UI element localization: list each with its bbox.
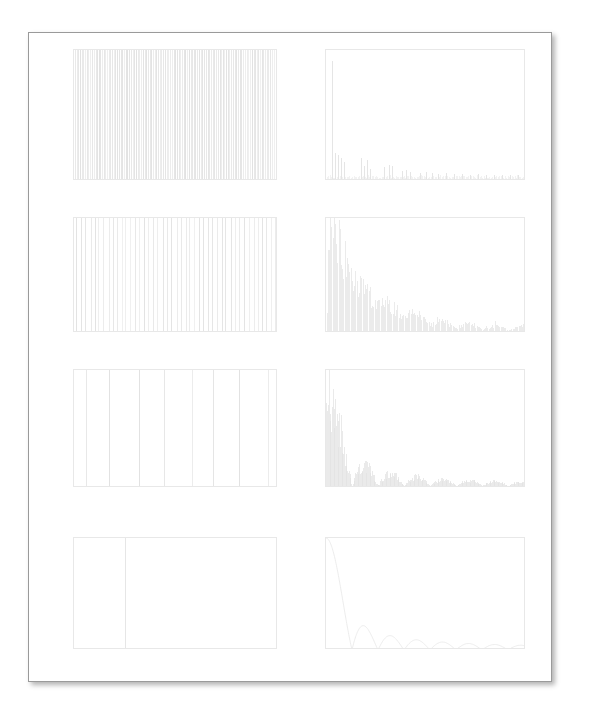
y-tick-mark bbox=[73, 381, 74, 382]
y-tick-mark bbox=[73, 560, 74, 561]
impulse-line bbox=[249, 217, 250, 331]
impulse-line bbox=[332, 61, 333, 179]
y-tick-mark bbox=[73, 549, 74, 550]
x-tick-mark bbox=[145, 331, 146, 332]
x-tick-mark bbox=[207, 648, 208, 649]
impulse-line bbox=[85, 217, 86, 331]
x-tick-mark bbox=[125, 648, 126, 649]
impulse-line bbox=[218, 49, 219, 179]
x-tick-mark bbox=[74, 179, 75, 180]
x-tick-mark bbox=[426, 648, 427, 649]
impulse-line bbox=[143, 49, 144, 179]
impulse-line bbox=[194, 49, 195, 179]
plot-grid: 0.00.51.01.52.02.53.03.54.04.55.00.0000.… bbox=[29, 33, 551, 681]
y-tick-mark bbox=[325, 167, 326, 168]
impulse-line bbox=[163, 217, 164, 331]
y-tick-mark bbox=[73, 264, 74, 265]
plot-spec-3: 0.00.10.20.30.40.50.60.702505007501000Hz bbox=[325, 369, 525, 487]
axes-area-spec-4: 0.000.010.020.030.040.050.060.070.080250… bbox=[325, 537, 525, 649]
plot-time-1: 0.00.51.01.52.02.53.03.54.04.55.00.0000.… bbox=[73, 49, 277, 180]
impulse-line bbox=[254, 217, 255, 331]
impulse-line bbox=[103, 217, 104, 331]
x-tick-mark bbox=[326, 179, 327, 180]
y-tick-mark bbox=[73, 298, 74, 299]
y-tick-mark bbox=[325, 386, 326, 387]
impulse-line bbox=[275, 217, 276, 331]
axes-area-spec-3: 0.00.10.20.30.40.50.60.702505007501000Hz bbox=[325, 369, 525, 487]
impulse-line bbox=[124, 49, 125, 179]
y-tick-mark bbox=[325, 102, 326, 103]
plot-time-3: 0.00.51.01.52.02.53.03.54.04.55.00.0000.… bbox=[73, 369, 277, 487]
impulse-line bbox=[236, 49, 237, 179]
x-tick-mark bbox=[268, 648, 269, 649]
impulse-line bbox=[130, 217, 131, 331]
x-tick-mark bbox=[227, 331, 228, 332]
x-tick-mark bbox=[247, 648, 248, 649]
impulse-line bbox=[222, 217, 223, 331]
y-tick-mark bbox=[73, 128, 74, 129]
impulse-line bbox=[189, 49, 190, 179]
impulse-line bbox=[144, 217, 145, 331]
x-tick-mark bbox=[74, 486, 75, 487]
impulse-line bbox=[204, 49, 205, 179]
impulse-line bbox=[100, 49, 101, 179]
x-tick-mark bbox=[166, 331, 167, 332]
impulse-line bbox=[109, 369, 110, 486]
y-tick-mark bbox=[325, 154, 326, 155]
impulse-line bbox=[258, 217, 259, 331]
impulse-line bbox=[91, 217, 92, 331]
x-tick-mark bbox=[376, 179, 377, 180]
y-tick-mark bbox=[325, 76, 326, 77]
axes-area-spec-1: 0.000.250.500.751.001.251.501.752.002.25… bbox=[325, 49, 525, 180]
impulse-line bbox=[265, 49, 266, 179]
x-tick-mark bbox=[326, 331, 327, 332]
axes-area-time-4: 0.00.51.01.52.02.53.03.54.04.55.00501502… bbox=[73, 537, 277, 649]
y-tick-mark bbox=[73, 275, 74, 276]
y-tick-mark bbox=[73, 310, 74, 311]
impulse-line bbox=[271, 217, 272, 331]
plot-spec-1: 0.000.250.500.751.001.251.501.752.002.25… bbox=[325, 49, 525, 180]
y-tick-mark bbox=[325, 141, 326, 142]
axes-area-time-2: 0.00.51.01.52.02.53.03.54.04.55.00501502… bbox=[73, 217, 277, 332]
y-tick-mark bbox=[325, 241, 326, 242]
impulse-line bbox=[164, 369, 165, 486]
impulse-line bbox=[81, 217, 82, 331]
impulse-line bbox=[250, 49, 251, 179]
y-tick-mark bbox=[73, 627, 74, 628]
impulse-line bbox=[117, 217, 118, 331]
x-tick-mark bbox=[376, 331, 377, 332]
y-tick-mark bbox=[325, 50, 326, 51]
plot-time-4: 0.00.51.01.52.02.53.03.54.04.55.00501502… bbox=[73, 537, 277, 649]
impulse-line bbox=[217, 217, 218, 331]
y-tick-mark bbox=[325, 63, 326, 64]
y-tick-mark bbox=[73, 538, 74, 539]
x-tick-mark bbox=[207, 331, 208, 332]
impulse-line bbox=[231, 49, 232, 179]
axes-area-spec-2: 0.000.250.500.751.001.2502505007501000Hz bbox=[325, 217, 525, 332]
y-tick-mark bbox=[325, 264, 326, 265]
x-tick-mark bbox=[176, 179, 177, 180]
x-tick-mark bbox=[476, 179, 477, 180]
y-tick-mark bbox=[73, 417, 74, 418]
impulse-line bbox=[181, 217, 182, 331]
x-tick-mark bbox=[247, 331, 248, 332]
x-tick-mark bbox=[125, 179, 126, 180]
impulse-line bbox=[151, 49, 152, 179]
y-tick-mark bbox=[73, 321, 74, 322]
x-tick-mark bbox=[74, 648, 75, 649]
impulse-line bbox=[125, 537, 126, 648]
y-tick-mark bbox=[73, 370, 74, 371]
y-tick-mark bbox=[325, 218, 326, 219]
impulse-line bbox=[226, 49, 227, 179]
y-tick-mark bbox=[73, 287, 74, 288]
curve-path bbox=[326, 538, 525, 649]
y-tick-mark bbox=[73, 252, 74, 253]
impulse-line bbox=[122, 217, 123, 331]
impulse-line bbox=[235, 217, 236, 331]
x-tick-mark bbox=[74, 331, 75, 332]
impulse-line bbox=[177, 217, 178, 331]
impulse-line bbox=[135, 217, 136, 331]
impulse-line bbox=[361, 158, 362, 179]
impulse-line bbox=[244, 217, 245, 331]
y-tick-mark bbox=[73, 616, 74, 617]
